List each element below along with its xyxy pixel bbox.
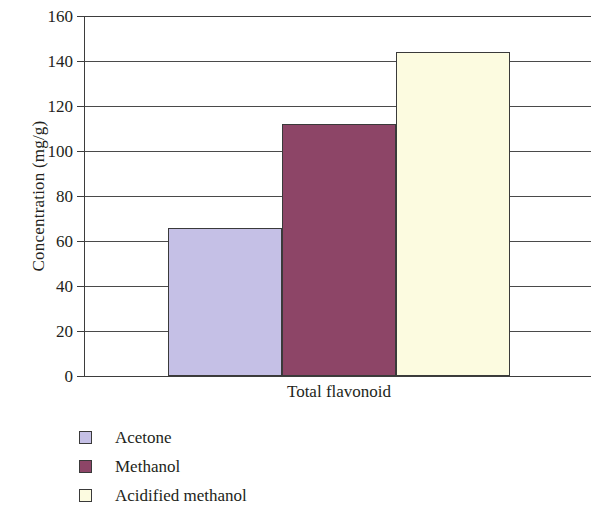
bar-methanol xyxy=(282,124,396,376)
legend-swatch-icon xyxy=(79,431,92,444)
bar-chart-figure: Concentration (mg/g) 1601401201008060402… xyxy=(0,0,591,512)
y-tick-mark xyxy=(77,61,84,62)
legend-item-acetone: Acetone xyxy=(79,423,247,452)
y-tick-mark xyxy=(77,151,84,152)
gridline xyxy=(84,106,591,107)
bar-acidified-methanol xyxy=(396,52,510,376)
legend-label: Acidified methanol xyxy=(115,487,247,504)
gridline xyxy=(84,61,591,62)
legend-label: Methanol xyxy=(115,458,180,475)
legend-swatch-icon xyxy=(79,460,92,473)
y-tick-mark xyxy=(77,16,84,17)
legend-label: Acetone xyxy=(115,429,172,446)
y-tick-label: 20 xyxy=(0,323,73,340)
legend-item-acidified-methanol: Acidified methanol xyxy=(79,481,247,510)
y-tick-label: 40 xyxy=(0,278,73,295)
y-tick-label: 100 xyxy=(0,143,73,160)
y-tick-label: 0 xyxy=(0,368,73,385)
y-tick-label: 140 xyxy=(0,53,73,70)
x-axis-category-label: Total flavonoid xyxy=(168,382,510,402)
bar-acetone xyxy=(168,228,282,377)
plot-area xyxy=(84,16,591,376)
y-tick-mark xyxy=(77,376,84,377)
legend-swatch-icon xyxy=(79,489,92,502)
y-tick-mark xyxy=(77,241,84,242)
x-axis-line xyxy=(84,376,591,377)
legend-item-methanol: Methanol xyxy=(79,452,247,481)
y-tick-label: 160 xyxy=(0,8,73,25)
y-tick-mark xyxy=(77,106,84,107)
y-tick-mark xyxy=(77,331,84,332)
y-tick-mark xyxy=(77,286,84,287)
y-tick-label: 60 xyxy=(0,233,73,250)
chart-legend: AcetoneMethanolAcidified methanol xyxy=(79,423,247,510)
y-tick-mark xyxy=(77,196,84,197)
y-axis-line xyxy=(84,16,85,377)
gridline xyxy=(84,16,591,17)
y-tick-label: 120 xyxy=(0,98,73,115)
y-tick-label: 80 xyxy=(0,188,73,205)
